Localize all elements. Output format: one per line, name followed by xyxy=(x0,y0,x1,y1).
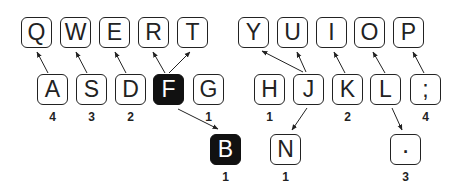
key-s: S xyxy=(76,74,107,105)
key-semicolon: ; xyxy=(410,74,441,105)
key-count-label: 3 xyxy=(76,110,107,124)
key-y: Y xyxy=(238,17,269,48)
key-b: B xyxy=(210,134,241,165)
key-k: K xyxy=(332,74,363,105)
arrow-J-to-N xyxy=(292,108,307,130)
key-r: R xyxy=(138,17,169,48)
key-h: H xyxy=(254,74,285,105)
key-d: D xyxy=(115,74,146,105)
key-l: L xyxy=(370,74,401,105)
arrow-;-to-P xyxy=(413,52,424,73)
key-t: T xyxy=(177,17,208,48)
key-count-label: 1 xyxy=(270,170,301,184)
arrow-J-to-Y xyxy=(262,51,303,72)
arrow-L-to-· xyxy=(392,108,402,130)
key-count-label: 4 xyxy=(410,110,441,124)
key-count-label: 1 xyxy=(254,110,285,124)
key-p: P xyxy=(393,17,424,48)
key-q: Q xyxy=(21,17,52,48)
key-n: N xyxy=(270,134,301,165)
key-o: O xyxy=(354,17,385,48)
key-e: E xyxy=(99,17,130,48)
key-f: F xyxy=(153,74,184,105)
key-count-label: 1 xyxy=(210,170,241,184)
arrow-D-to-E xyxy=(115,52,126,73)
key-count-label: 1 xyxy=(193,110,224,124)
arrow-L-to-O xyxy=(373,52,385,73)
key-u: U xyxy=(277,17,308,48)
arrow-F-to-R xyxy=(153,52,165,73)
arrow-J-to-U xyxy=(297,52,306,72)
key-a: A xyxy=(37,74,68,105)
arrow-A-to-Q xyxy=(37,52,48,73)
arrow-S-to-W xyxy=(76,52,87,73)
key-w: W xyxy=(60,17,91,48)
key-g: G xyxy=(193,74,224,105)
key-count-label: 2 xyxy=(332,110,363,124)
key-i: I xyxy=(316,17,347,48)
key-count-label: 3 xyxy=(390,170,421,184)
key-count-label: 2 xyxy=(115,110,146,124)
key-count-label: 4 xyxy=(37,110,68,124)
arrow-K-to-I xyxy=(334,52,345,73)
arrow-F-to-T xyxy=(169,52,190,73)
key-j: J xyxy=(293,74,324,105)
key-period: · xyxy=(390,134,421,165)
